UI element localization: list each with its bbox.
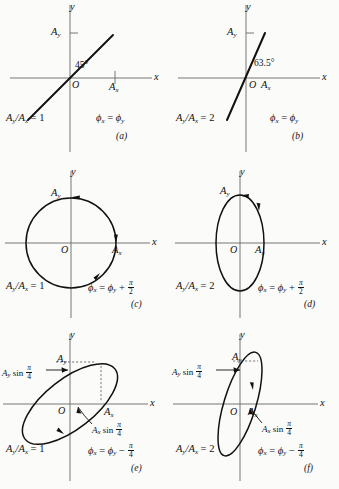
axis-x-label-f: x [320, 398, 325, 409]
pi-fraction-e: π4 [128, 442, 134, 458]
amplitude-ratio-equation-f: Ay/Ax = 2 [176, 444, 214, 456]
amplitude-y-label-d: Ay [220, 186, 230, 198]
panel-a: y x Ay Ax O 45° Ay/Ax = 1 ϕx = ϕy (a) [0, 0, 169, 163]
amplitude-x-label-d: Ax [255, 245, 265, 257]
panel-a-plot [0, 0, 169, 163]
amplitude-ratio-equation-d: Ay/Ax = 2 [176, 281, 214, 293]
panel-caption-d: (d) [304, 299, 315, 309]
amplitude-y-label-c: Ay [51, 188, 61, 200]
amplitude-ratio-equation-e: Ay/Ax = 1 [6, 444, 44, 456]
annotation-arrows-e [46, 367, 92, 424]
panel-caption-e: (e) [131, 463, 142, 473]
amplitude-ratio-equation-a: Ay/Ax = 1 [6, 113, 44, 125]
direction-arrows-c [71, 195, 118, 280]
axis-y-label-f: y [240, 330, 245, 341]
ay-sin-annotation-e: Ay sin π4 [2, 364, 32, 380]
panel-b: y x Ay Ax O 63.5° Ay/Ax = 2 ϕx = ϕy (b) [170, 0, 339, 163]
axes-d [175, 171, 320, 318]
axis-y-label-b: y [246, 2, 251, 13]
axis-x-label-b: x [322, 72, 327, 83]
axis-y-label-c: y [71, 167, 76, 178]
panel-caption-a: (a) [116, 131, 127, 141]
origin-label-c: O [61, 245, 68, 255]
amplitude-x-label-f: Ax [248, 407, 258, 419]
phase-equation-b: ϕx = ϕy [270, 113, 298, 125]
phase-equation-a: ϕx = ϕy [96, 113, 124, 125]
panel-caption-c: (c) [131, 299, 142, 309]
ax-sin-annotation-f: Ax sin π4 [262, 420, 292, 436]
angle-label-a: 45° [75, 61, 88, 71]
direction-arrows-f [250, 382, 254, 390]
origin-label-f: O [230, 407, 237, 417]
direction-arrows-e [56, 428, 64, 435]
axis-x-label-c: x [152, 237, 157, 248]
origin-label-b: O [249, 80, 256, 90]
phase-equation-e: ϕx = ϕy − π4 [88, 442, 134, 458]
axis-x-label-d: x [322, 237, 327, 248]
axis-x-label-e: x [150, 398, 155, 409]
amplitude-y-label-f: Ay [232, 352, 242, 364]
amplitude-ratio-equation-c: Ay/Ax = 1 [6, 281, 44, 293]
axes-f [173, 334, 318, 481]
ax-sin-annotation-e: Ax sin π4 [92, 421, 122, 437]
panel-e: y x Ay Ax O Ay sin π4 Ax sin π4 Ay/Ax = … [0, 326, 169, 489]
amplitude-x-label-e: Ax [104, 407, 114, 419]
panel-caption-b: (b) [292, 131, 303, 141]
axis-y-label-d: y [240, 167, 245, 178]
pi-fraction-f-ay: π4 [196, 363, 202, 379]
pi-fraction-f-ax: π4 [286, 420, 292, 436]
phase-equation-d: ϕx = ϕy + π2 [258, 279, 304, 295]
panel-c: y x Ay Ax O Ay/Ax = 1 ϕx = ϕy + π2 (c) [0, 163, 169, 326]
amplitude-ratio-equation-b: Ay/Ax = 2 [176, 113, 214, 125]
pi-fraction-e-ax: π4 [116, 421, 122, 437]
origin-label-a: O [72, 80, 79, 90]
phase-equation-c: ϕx = ϕy + π2 [88, 279, 134, 295]
curve-a-line [28, 35, 113, 120]
pi-fraction-d: π2 [298, 279, 304, 295]
panel-d: y x Ay Ax O Ay/Ax = 2 ϕx = ϕy + π2 (d) [170, 163, 339, 326]
angle-label-b: 63.5° [254, 59, 274, 69]
amplitude-y-label-a: Ay [51, 27, 61, 39]
panel-c-plot [0, 163, 169, 326]
axis-x-label-a: x [154, 72, 159, 83]
pi-fraction-c: π2 [128, 279, 134, 295]
panel-e-plot [0, 326, 169, 489]
axis-y-label-e: y [70, 330, 75, 341]
panel-caption-f: (f) [304, 463, 313, 473]
amplitude-y-label-b: Ay [227, 27, 237, 39]
amplitude-x-label-c: Ax [112, 245, 122, 257]
origin-label-d: O [230, 245, 237, 255]
axes-a [10, 5, 152, 152]
pi-fraction-e-ay: π4 [26, 364, 32, 380]
pi-fraction-f: π4 [298, 442, 304, 458]
phase-equation-f: ϕx = ϕy − π4 [258, 442, 304, 458]
amplitude-x-label-a: Ax [109, 82, 119, 94]
panel-f: y x Ay Ax O Ay sin π4 Ax sin π4 Ay/Ax = … [170, 326, 339, 489]
axes-e [3, 334, 148, 481]
amplitude-x-label-b: Ax [261, 80, 271, 92]
origin-label-e: O [58, 406, 65, 416]
figure-sheet: y x Ay Ax O 45° Ay/Ax = 1 ϕx = ϕy (a) y … [0, 0, 339, 489]
axis-y-label-a: y [70, 2, 75, 13]
ay-sin-annotation-f: Ay sin π4 [172, 363, 202, 379]
amplitude-y-label-e: Ay [57, 354, 67, 366]
